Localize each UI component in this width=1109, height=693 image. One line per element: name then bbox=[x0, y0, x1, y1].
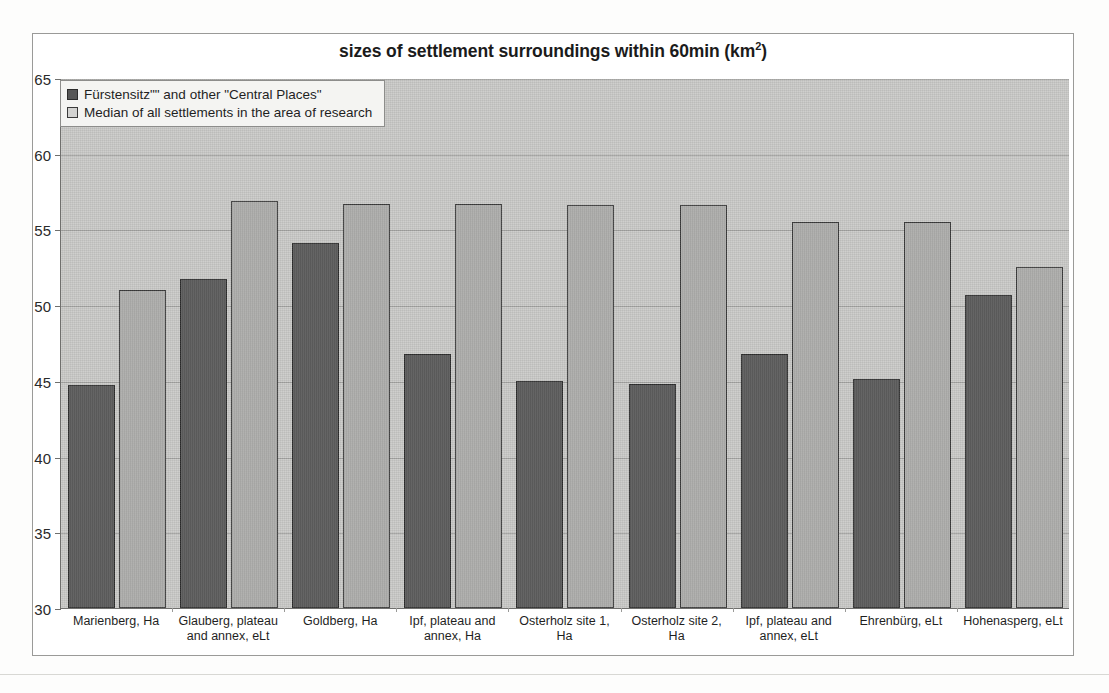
x-axis-label-line: Ha bbox=[621, 629, 733, 644]
x-axis-separator bbox=[845, 608, 846, 612]
bar-series-1[interactable] bbox=[180, 279, 227, 608]
x-axis-separator bbox=[396, 608, 397, 612]
bar-series-1[interactable] bbox=[404, 354, 451, 608]
x-axis-label: Osterholz site 2,Ha bbox=[621, 614, 733, 644]
chart-title-main: sizes of settlement surroundings within … bbox=[339, 41, 755, 61]
bar-series-2[interactable] bbox=[455, 204, 502, 608]
bar-series-2[interactable] bbox=[567, 205, 614, 608]
x-axis-separator bbox=[621, 608, 622, 612]
x-axis-label-line: annex, Ha bbox=[396, 629, 508, 644]
x-axis: Marienberg, HaGlauberg, plateauand annex… bbox=[60, 608, 1068, 656]
chart-title-tail: ) bbox=[761, 41, 767, 61]
bar-group bbox=[61, 79, 173, 608]
bar-group bbox=[622, 79, 734, 608]
bar-series-1[interactable] bbox=[965, 295, 1012, 608]
x-axis-label-line: Goldberg, Ha bbox=[284, 614, 396, 629]
x-axis-label-line: Marienberg, Ha bbox=[60, 614, 172, 629]
x-axis-label: Marienberg, Ha bbox=[60, 614, 172, 629]
bar-group bbox=[734, 79, 846, 608]
chart-title: sizes of settlement surroundings within … bbox=[33, 40, 1073, 62]
scanned-page: sizes of settlement surroundings within … bbox=[0, 0, 1109, 693]
legend-swatch-icon-series-1 bbox=[67, 89, 78, 100]
x-axis-label-line: Ipf, plateau and bbox=[396, 614, 508, 629]
legend-swatch-icon-series-2 bbox=[67, 107, 78, 118]
x-axis-label: Ehrenbürg, eLt bbox=[845, 614, 957, 629]
x-axis-label-line: Ipf, plateau and bbox=[733, 614, 845, 629]
bar-series-2[interactable] bbox=[904, 222, 951, 608]
x-axis-label-line: and annex, eLt bbox=[172, 629, 284, 644]
x-axis-label-line: annex, eLt bbox=[733, 629, 845, 644]
y-tick-label-50: 50 bbox=[34, 298, 51, 315]
bar-series-1[interactable] bbox=[292, 243, 339, 608]
y-tick-label-30: 30 bbox=[34, 601, 51, 618]
bar-group bbox=[397, 79, 509, 608]
y-tick-label-65: 65 bbox=[34, 71, 51, 88]
x-axis-label-line: Ha bbox=[508, 629, 620, 644]
y-tick-label-55: 55 bbox=[34, 222, 51, 239]
bar-series-2[interactable] bbox=[680, 205, 727, 608]
bar-group bbox=[285, 79, 397, 608]
x-axis-label: Ipf, plateau andannex, Ha bbox=[396, 614, 508, 644]
chart-legend: Fürstensitz"" and other "Central Places"… bbox=[60, 80, 385, 127]
x-axis-separator bbox=[508, 608, 509, 612]
legend-item-series-2: Median of all settlements in the area of… bbox=[67, 103, 372, 121]
bar-series-1[interactable] bbox=[741, 354, 788, 608]
bar-group bbox=[846, 79, 958, 608]
legend-label-series-2: Median of all settlements in the area of… bbox=[84, 105, 372, 120]
bar-series-1[interactable] bbox=[853, 379, 900, 608]
y-tick-label-60: 60 bbox=[34, 146, 51, 163]
x-axis-separator bbox=[957, 608, 958, 612]
bar-group bbox=[173, 79, 285, 608]
x-axis-rule bbox=[60, 655, 1068, 656]
x-axis-label-line: Osterholz site 2, bbox=[621, 614, 733, 629]
bar-group bbox=[958, 79, 1070, 608]
chart-frame: sizes of settlement surroundings within … bbox=[32, 33, 1074, 656]
x-axis-label: Hohenasperg, eLt bbox=[957, 614, 1069, 629]
x-axis-label-line: Hohenasperg, eLt bbox=[957, 614, 1069, 629]
x-axis-label-line: Ehrenbürg, eLt bbox=[845, 614, 957, 629]
bar-series-1[interactable] bbox=[516, 381, 563, 608]
plot-area: 3035404550556065 bbox=[60, 79, 1069, 609]
bar-series-2[interactable] bbox=[1016, 267, 1063, 608]
y-tick-label-40: 40 bbox=[34, 449, 51, 466]
bar-series-1[interactable] bbox=[629, 384, 676, 608]
page-edge-divider bbox=[0, 674, 1109, 675]
legend-label-series-1: Fürstensitz"" and other "Central Places" bbox=[84, 87, 322, 102]
y-tick-label-35: 35 bbox=[34, 525, 51, 542]
x-axis-label: Goldberg, Ha bbox=[284, 614, 396, 629]
bar-series-2[interactable] bbox=[231, 201, 278, 608]
x-axis-label-line: Osterholz site 1, bbox=[508, 614, 620, 629]
bar-series-1[interactable] bbox=[68, 385, 115, 608]
legend-item-series-1: Fürstensitz"" and other "Central Places" bbox=[67, 85, 372, 103]
bar-series-2[interactable] bbox=[343, 204, 390, 608]
x-axis-label: Glauberg, plateauand annex, eLt bbox=[172, 614, 284, 644]
x-axis-label: Ipf, plateau andannex, eLt bbox=[733, 614, 845, 644]
y-tick-label-45: 45 bbox=[34, 373, 51, 390]
x-axis-separator bbox=[733, 608, 734, 612]
x-axis-label: Osterholz site 1,Ha bbox=[508, 614, 620, 644]
bar-series-2[interactable] bbox=[792, 222, 839, 608]
x-axis-separator bbox=[172, 608, 173, 612]
bar-group bbox=[509, 79, 621, 608]
x-axis-separator bbox=[284, 608, 285, 612]
bar-series-2[interactable] bbox=[119, 290, 166, 608]
x-axis-label-line: Glauberg, plateau bbox=[172, 614, 284, 629]
